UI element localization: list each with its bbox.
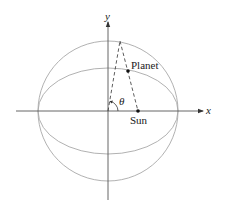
diagram-svg: y x Planet Sun θ xyxy=(0,0,225,206)
y-axis-label: y xyxy=(104,10,110,22)
orbit-diagram: y x Planet Sun θ xyxy=(0,0,225,206)
sun-label: Sun xyxy=(130,114,148,126)
theta-label: θ xyxy=(119,95,125,107)
x-axis-label: x xyxy=(205,104,211,116)
planet-point xyxy=(126,69,130,73)
planet-label: Planet xyxy=(131,59,159,71)
sun-point xyxy=(136,109,140,113)
